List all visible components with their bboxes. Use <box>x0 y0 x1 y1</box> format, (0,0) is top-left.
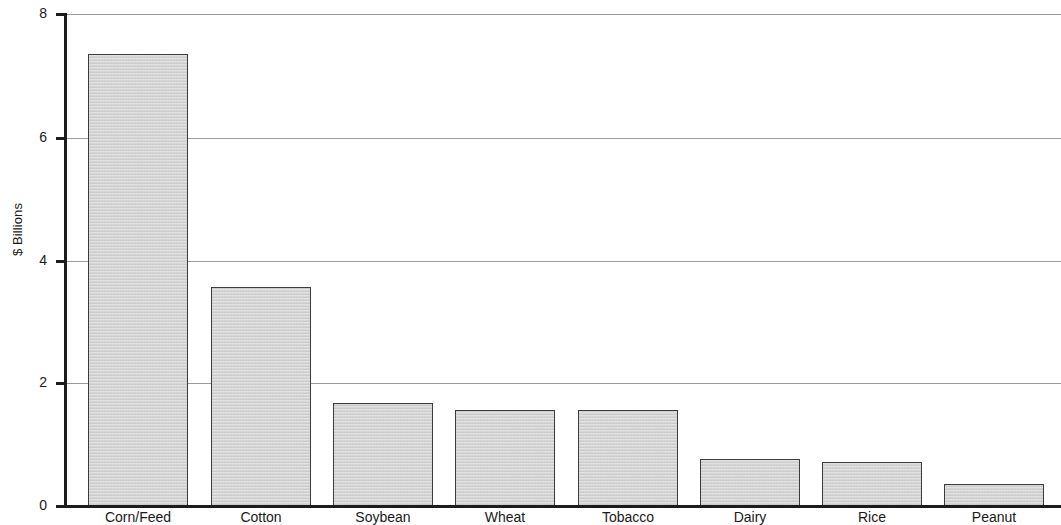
y-tick-mark-0 <box>56 505 67 508</box>
y-tick-mark-4 <box>56 260 67 263</box>
y-tick-label-8: 8 <box>21 5 47 21</box>
x-category-label-dairy: Dairy <box>700 509 800 525</box>
bar-corn-feed <box>88 54 188 507</box>
gridline-8 <box>66 14 1061 15</box>
bar-soybean <box>333 403 433 507</box>
y-tick-label-0: 0 <box>21 497 47 513</box>
bar-rice <box>822 462 922 507</box>
y-tick-mark-2 <box>56 382 67 385</box>
bar-dairy <box>700 459 800 507</box>
gridline-6 <box>66 138 1061 139</box>
x-category-label-wheat: Wheat <box>455 509 555 525</box>
plot-area: 8 6 4 2 0 Corn/Feed Cotton Soybean Wheat… <box>0 0 1061 525</box>
y-tick-mark-8 <box>56 13 67 16</box>
x-category-label-tobacco: Tobacco <box>578 509 678 525</box>
bar-cotton <box>211 287 311 507</box>
bar-peanut <box>944 484 1044 507</box>
y-tick-mark-6 <box>56 137 67 140</box>
y-tick-label-4: 4 <box>21 252 47 268</box>
bar-chart: $ Billions 8 6 4 2 0 Corn/Feed Cot <box>0 0 1061 525</box>
x-category-label-rice: Rice <box>822 509 922 525</box>
gridline-4 <box>66 261 1061 262</box>
y-tick-label-6: 6 <box>21 129 47 145</box>
bar-wheat <box>455 410 555 507</box>
x-category-label-cotton: Cotton <box>211 509 311 525</box>
x-axis-line <box>64 505 1061 508</box>
y-tick-label-2: 2 <box>21 374 47 390</box>
x-category-label-corn-feed: Corn/Feed <box>88 509 188 525</box>
x-category-label-soybean: Soybean <box>333 509 433 525</box>
x-category-label-peanut: Peanut <box>944 509 1044 525</box>
bar-tobacco <box>578 410 678 507</box>
